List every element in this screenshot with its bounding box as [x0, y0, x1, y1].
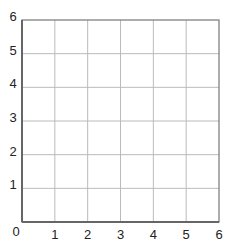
y-tick-label: 6 — [9, 9, 16, 24]
y-axis-tick-labels: 123456 — [9, 9, 16, 192]
grid-lines — [22, 20, 219, 222]
y-tick-label: 1 — [9, 177, 16, 192]
x-tick-label: 5 — [183, 227, 190, 242]
x-tick-label: 6 — [215, 227, 222, 242]
x-tick-label: 3 — [117, 227, 124, 242]
x-tick-label: 4 — [150, 227, 157, 242]
x-tick-label: 1 — [51, 227, 58, 242]
x-axis-tick-labels: 123456 — [51, 227, 222, 242]
y-tick-label: 5 — [9, 43, 16, 58]
y-tick-label: 4 — [9, 76, 16, 91]
origin-label: 0 — [12, 224, 19, 239]
coordinate-grid-chart: 123456 123456 0 — [0, 0, 236, 249]
y-tick-label: 3 — [9, 110, 16, 125]
x-tick-label: 2 — [84, 227, 91, 242]
y-tick-label: 2 — [9, 144, 16, 159]
